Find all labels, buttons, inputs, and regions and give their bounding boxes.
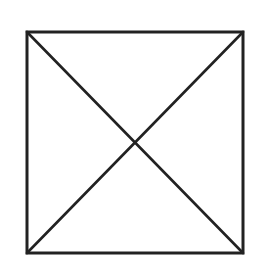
diagram-canvas bbox=[0, 0, 262, 264]
